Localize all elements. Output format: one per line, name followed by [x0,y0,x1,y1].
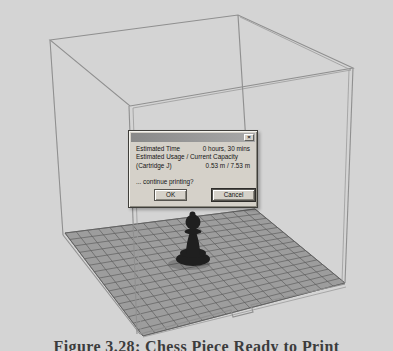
estimated-usage-label: Estimated Usage / Current Capacity [136,153,238,160]
estimated-time-value: 0 hours, 30 mins [203,145,250,152]
ok-button[interactable]: OK [154,189,187,201]
close-button[interactable]: × [244,134,254,141]
figure-screenshot: × Estimated Time 0 hours, 30 mins Estima… [0,0,393,351]
estimated-time-row: Estimated Time 0 hours, 30 mins [131,144,255,152]
close-icon: × [247,135,251,140]
cartridge-row: (Cartridge J) 0.53 m / 7.53 m [131,160,255,168]
estimated-usage-row: Estimated Usage / Current Capacity [131,152,255,160]
cancel-button[interactable]: Cancel [212,189,255,201]
dialog-titlebar[interactable]: × [131,133,255,142]
dialog-buttons: OK Cancel [131,189,255,201]
continue-printing-question: ... continue printing? [131,169,255,185]
dialog-body: Estimated Time 0 hours, 30 mins Estimate… [131,144,255,205]
estimated-time-label: Estimated Time [136,145,180,152]
cartridge-label: (Cartridge J) [136,162,172,169]
print-confirmation-dialog: × Estimated Time 0 hours, 30 mins Estima… [128,130,258,208]
figure-caption: Figure 3.28: Chess Piece Ready to Print [0,338,393,351]
cartridge-value: 0.53 m / 7.53 m [206,162,250,169]
